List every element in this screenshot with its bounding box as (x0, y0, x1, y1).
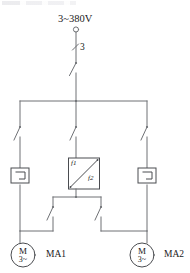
motor-ma1-label: MA1 (46, 250, 66, 260)
phase-count-label: 3 (80, 43, 85, 53)
main-switch-blade[interactable] (70, 63, 77, 76)
contactor-right-blade[interactable] (141, 127, 147, 140)
changeover-block-corner-node-bl (70, 186, 72, 188)
thermal-overload-relay-right-body (138, 168, 156, 183)
changeover-switch-left-blade[interactable] (47, 207, 53, 220)
changeover-block-corner-node-tr (97, 159, 99, 161)
changeover-switch-right-blade[interactable] (95, 207, 101, 220)
motor-ma2-phase-mark: 3~ (133, 256, 151, 264)
contactor-middle-blade[interactable] (70, 127, 76, 140)
supply-terminal-node (73, 27, 78, 32)
supply-voltage-label: 3~380V (58, 14, 92, 25)
motor-ma2-label: MA2 (164, 250, 184, 260)
changeover-split-node (75, 196, 77, 198)
contactor-left-blade[interactable] (14, 127, 20, 140)
motor-ma1-phase-mark: 3~ (14, 256, 32, 264)
thermal-overload-relay-left-body (11, 168, 29, 183)
changeover-f1-label: f1 (71, 160, 76, 167)
changeover-f2-label: f2 (88, 175, 93, 182)
circuit-schematic-canvas (0, 0, 190, 273)
circuit-diagram: 3~380V 3 f1 f2 M 3~ MA1 M 3~ MA2 (0, 0, 190, 273)
